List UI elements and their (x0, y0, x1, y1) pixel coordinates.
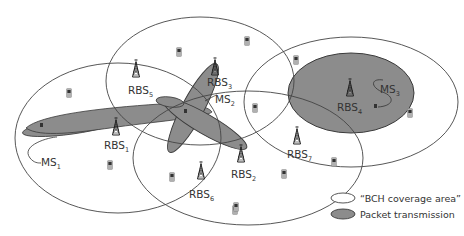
legend-packet-label: Packet transmission (360, 209, 455, 220)
label-ms2: MS2 (215, 93, 235, 108)
ms2-device (184, 109, 187, 113)
phone-icon (253, 104, 258, 113)
label-rbs7: RBS7 (287, 148, 312, 163)
network-coverage-diagram: RBS1 RBS2 RBS3 RBS4 RBS5 RBS6 RBS7 MS1 M… (0, 0, 464, 236)
tower-icon-rbs5 (133, 59, 140, 77)
tower-icon-rbs6 (198, 161, 205, 179)
phone-icon (294, 56, 299, 65)
label-rbs1: RBS1 (104, 139, 129, 154)
ms3-device (374, 104, 377, 108)
phone-icon (332, 158, 337, 167)
label-rbs2: RBS2 (231, 168, 256, 183)
phone-icon (177, 48, 182, 57)
tower-icon-rbs7 (294, 126, 301, 144)
label-ms1: MS1 (41, 156, 61, 171)
legend: “BCH coverage area” Packet transmission (331, 193, 461, 220)
phone-icon (245, 37, 250, 46)
legend-coverage-swatch (331, 193, 355, 203)
phone-icon (67, 89, 72, 98)
phone-icon (170, 173, 175, 182)
ms1-device (40, 123, 43, 127)
legend-coverage-label: “BCH coverage area” (360, 193, 461, 204)
label-rbs6: RBS6 (189, 188, 214, 203)
phone-icon (282, 170, 287, 179)
phone-icon (234, 203, 239, 212)
legend-packet-swatch (331, 209, 355, 219)
label-rbs5: RBS5 (128, 84, 153, 99)
phone-icon (108, 161, 113, 170)
phone-icon (408, 109, 413, 118)
